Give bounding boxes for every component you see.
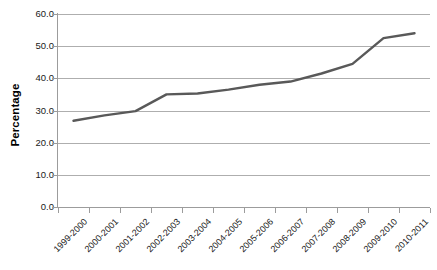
gridline — [58, 175, 430, 176]
y-axis-tick — [52, 175, 58, 176]
y-axis-tick-label: 0.0 — [30, 202, 54, 212]
x-axis-tick — [244, 208, 245, 213]
line-chart: Percentage 0.010.020.030.040.050.060.0 1… — [0, 0, 437, 270]
x-axis-tick — [89, 208, 90, 213]
x-axis-line — [52, 207, 430, 208]
plot-area — [58, 14, 430, 207]
y-axis-tick-label: 20.0 — [30, 138, 54, 148]
gridline — [58, 14, 430, 15]
y-axis-tick-labels: 0.010.020.030.040.050.060.0 — [30, 0, 54, 270]
x-axis-tick — [58, 208, 59, 213]
x-axis-tick — [399, 208, 400, 213]
gridline — [58, 143, 430, 144]
x-axis-tick — [430, 208, 431, 213]
x-axis-tick — [306, 208, 307, 213]
y-axis-tick — [52, 14, 58, 15]
y-axis-tick-label: 40.0 — [30, 73, 54, 83]
x-axis-tick — [213, 208, 214, 213]
y-axis-tick — [52, 111, 58, 112]
gridline — [58, 111, 430, 112]
x-axis-tick — [182, 208, 183, 213]
x-axis-tick — [151, 208, 152, 213]
x-axis-tick — [337, 208, 338, 213]
y-axis-tick — [52, 143, 58, 144]
y-axis-tick-label: 10.0 — [30, 170, 54, 180]
y-axis-tick-label: 50.0 — [30, 41, 54, 51]
x-axis-tick — [120, 208, 121, 213]
x-axis-tick-label: 1999-2000 — [52, 217, 89, 254]
x-axis-tick — [275, 208, 276, 213]
y-axis-tick-label: 30.0 — [30, 106, 54, 116]
x-axis-tick — [368, 208, 369, 213]
gridline — [58, 78, 430, 79]
y-axis-tick — [52, 78, 58, 79]
y-axis-title: Percentage — [9, 55, 27, 175]
y-axis-tick — [52, 46, 58, 47]
gridline — [58, 46, 430, 47]
y-axis-tick-label: 60.0 — [30, 9, 54, 19]
